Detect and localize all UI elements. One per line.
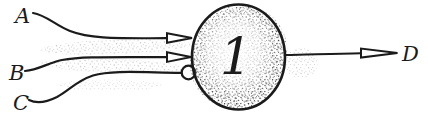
excitatory-synapse-arrowhead-b xyxy=(167,52,191,62)
output-d-label: D xyxy=(401,42,419,66)
input-c-label: C xyxy=(13,91,29,115)
output-arrowhead xyxy=(361,49,398,58)
neuron-threshold-label: 1 xyxy=(220,28,252,86)
neuron-diagram-canvas: A B C 1 D xyxy=(0,0,428,119)
input-b-label: B xyxy=(8,61,24,85)
input-a-label: A xyxy=(13,4,30,28)
excitatory-synapse-arrowhead-a xyxy=(167,33,192,43)
input-a-fibre xyxy=(33,13,166,38)
neuron-diagram: A B C 1 D xyxy=(0,0,428,119)
input-a: A xyxy=(13,4,192,43)
